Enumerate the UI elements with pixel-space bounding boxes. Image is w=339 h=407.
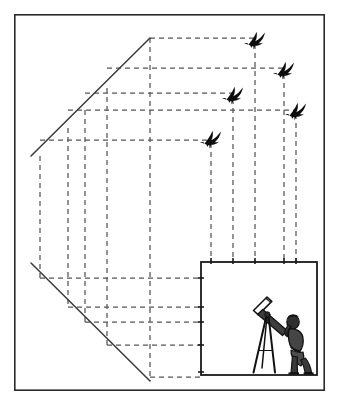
figure-canvas	[0, 0, 339, 407]
bird-silhouette-1	[244, 32, 265, 50]
bird-silhouette-2	[273, 62, 294, 80]
figure-root: Technical diagram: five flying birds are…	[0, 0, 339, 407]
bird-silhouette-4	[285, 103, 306, 121]
upper-sight-line	[31, 38, 150, 156]
perspective-grid-upper	[40, 38, 296, 140]
bird-silhouette-3	[222, 87, 243, 105]
vertical-guides	[40, 38, 150, 381]
perspective-grid-lower	[40, 278, 201, 377]
